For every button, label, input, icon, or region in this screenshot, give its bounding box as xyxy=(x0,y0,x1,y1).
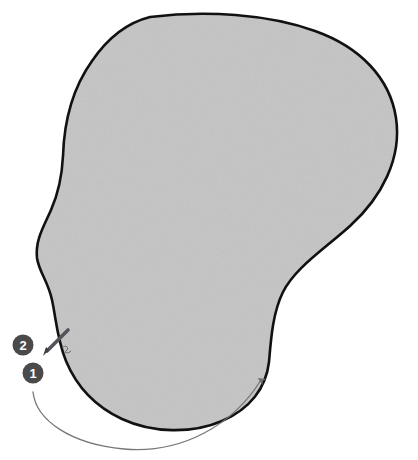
figure-canvas: 2 1 xyxy=(0,0,418,460)
anatomical-diagram: 2 1 xyxy=(0,0,418,460)
step-marker-2[interactable]: 2 xyxy=(13,335,34,356)
step-marker-2-circle[interactable] xyxy=(13,335,34,356)
step-marker-1-circle[interactable] xyxy=(23,363,44,384)
region-texture xyxy=(0,0,418,460)
step-marker-1[interactable]: 1 xyxy=(23,363,44,384)
shaded-region-group xyxy=(0,0,418,460)
